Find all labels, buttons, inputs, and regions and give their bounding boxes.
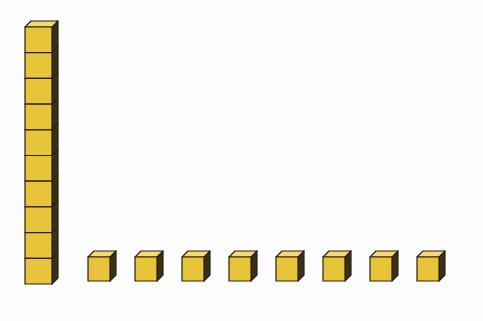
cube-front-face (25, 207, 52, 233)
cube-front-face (25, 156, 52, 182)
unit-cube-3 (182, 251, 210, 281)
unit-cube-7 (370, 251, 398, 281)
unit-cube-2 (135, 251, 163, 281)
cube-front-face (25, 258, 52, 284)
ten-rod (25, 21, 58, 284)
cube-front-face (417, 257, 439, 281)
unit-cube-6 (323, 251, 351, 281)
cube-front-face (88, 257, 110, 281)
unit-cube-4 (229, 251, 257, 281)
rod-unit-1 (25, 21, 58, 53)
cube-front-face (25, 104, 52, 130)
unit-cube-5 (276, 251, 304, 281)
cube-front-face (25, 233, 52, 259)
cube-front-face (182, 257, 204, 281)
unit-cube-1 (88, 251, 116, 281)
unit-cube-8 (417, 251, 445, 281)
unit-cubes-group (88, 251, 445, 281)
cube-top-face (25, 21, 58, 27)
base-ten-blocks-diagram (0, 0, 483, 321)
cube-side-face (52, 252, 58, 284)
cube-front-face (25, 53, 52, 79)
cube-front-face (25, 78, 52, 104)
cube-front-face (276, 257, 298, 281)
cube-front-face (229, 257, 251, 281)
cube-front-face (25, 27, 52, 53)
cube-front-face (25, 181, 52, 207)
cube-front-face (323, 257, 345, 281)
cube-front-face (135, 257, 157, 281)
cube-front-face (370, 257, 392, 281)
cube-front-face (25, 130, 52, 156)
